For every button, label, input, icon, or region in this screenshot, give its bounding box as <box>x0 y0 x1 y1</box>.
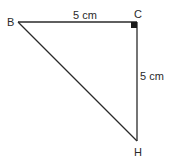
side-length-label-ch: 5 cm <box>140 70 164 82</box>
side-length-label-bc: 5 cm <box>73 9 97 21</box>
vertex-label-h: H <box>134 146 142 158</box>
right-angle-marker <box>131 22 137 28</box>
vertex-label-c: C <box>134 8 142 20</box>
side-bh-hypotenuse <box>18 22 137 141</box>
vertex-label-b: B <box>7 16 14 28</box>
triangle-diagram: B C H 5 cm 5 cm <box>0 0 170 168</box>
